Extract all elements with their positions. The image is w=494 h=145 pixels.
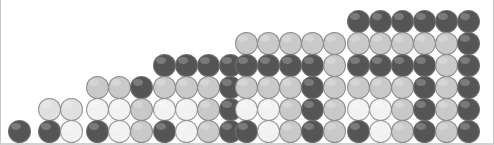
disc-icon [279, 32, 302, 55]
disc-icon [347, 10, 370, 33]
disc-icon [369, 98, 392, 121]
disc-row [347, 10, 479, 32]
disc-icon [435, 76, 458, 99]
disc-icon [60, 98, 83, 121]
disc-icon [301, 32, 324, 55]
disc-row [38, 120, 82, 142]
disc-icon [347, 32, 370, 55]
disc-icon [413, 120, 436, 143]
disc-icon [279, 120, 302, 143]
disc-row [235, 76, 345, 98]
disc-row [153, 76, 241, 98]
disc-icon [86, 98, 109, 121]
disc-row [235, 98, 345, 120]
disc-icon [60, 120, 83, 143]
disc-row [8, 120, 30, 142]
disc-icon [435, 120, 458, 143]
disc-icon [175, 76, 198, 99]
disc-icon [197, 98, 220, 121]
disc-icon [391, 54, 414, 77]
disc-icon [301, 98, 324, 121]
disc-icon [391, 98, 414, 121]
disc-icon [153, 120, 176, 143]
disc-icon [391, 76, 414, 99]
disc-row [347, 98, 479, 120]
disc-icon [369, 10, 392, 33]
disc-icon [235, 54, 258, 77]
disc-icon [323, 120, 346, 143]
group-4 [153, 54, 241, 142]
disc-icon [413, 76, 436, 99]
disc-icon [235, 76, 258, 99]
disc-row [86, 98, 152, 120]
disc-icon [175, 120, 198, 143]
disc-row [235, 54, 345, 76]
disc-row [153, 98, 241, 120]
disc-icon [279, 54, 302, 77]
disc-icon [369, 120, 392, 143]
disc-icon [257, 98, 280, 121]
disc-icon [108, 98, 131, 121]
disc-icon [369, 76, 392, 99]
disc-icon [413, 98, 436, 121]
disc-icon [8, 120, 31, 143]
disc-icon [391, 32, 414, 55]
disc-row [235, 32, 345, 54]
group-6 [347, 10, 479, 142]
disc-icon [86, 120, 109, 143]
disc-row [86, 76, 152, 98]
disc-icon [435, 98, 458, 121]
disc-icon [130, 76, 153, 99]
disc-icon [235, 98, 258, 121]
disc-icon [130, 120, 153, 143]
disc-icon [369, 54, 392, 77]
disc-icon [323, 98, 346, 121]
disc-row [153, 54, 241, 76]
disc-icon [108, 76, 131, 99]
disc-icon [235, 32, 258, 55]
disc-icon [153, 76, 176, 99]
disc-icon [301, 76, 324, 99]
disc-row [347, 54, 479, 76]
disc-icon [435, 10, 458, 33]
disc-icon [257, 120, 280, 143]
disc-icon [413, 54, 436, 77]
disc-icon [257, 54, 280, 77]
disc-icon [457, 76, 480, 99]
disc-icon [86, 76, 109, 99]
disc-icon [457, 54, 480, 77]
disc-icon [153, 98, 176, 121]
disc-icon [130, 98, 153, 121]
disc-row [347, 32, 479, 54]
disc-row [86, 120, 152, 142]
disc-staircase-figure [0, 0, 494, 145]
disc-icon [369, 32, 392, 55]
disc-icon [435, 54, 458, 77]
disc-icon [197, 76, 220, 99]
disc-icon [457, 32, 480, 55]
disc-icon [257, 32, 280, 55]
disc-icon [347, 54, 370, 77]
disc-icon [153, 54, 176, 77]
disc-row [153, 120, 241, 142]
disc-icon [38, 98, 61, 121]
disc-icon [279, 76, 302, 99]
disc-icon [279, 98, 302, 121]
disc-row [38, 98, 82, 120]
group-5 [235, 32, 345, 142]
disc-icon [301, 120, 324, 143]
disc-icon [323, 76, 346, 99]
disc-icon [38, 120, 61, 143]
disc-icon [108, 120, 131, 143]
disc-icon [257, 76, 280, 99]
disc-icon [347, 98, 370, 121]
disc-icon [413, 10, 436, 33]
disc-icon [235, 120, 258, 143]
disc-icon [457, 120, 480, 143]
group-2 [38, 98, 82, 142]
disc-row [235, 120, 345, 142]
disc-icon [391, 10, 414, 33]
disc-row [347, 120, 479, 142]
disc-icon [301, 54, 324, 77]
disc-icon [457, 10, 480, 33]
